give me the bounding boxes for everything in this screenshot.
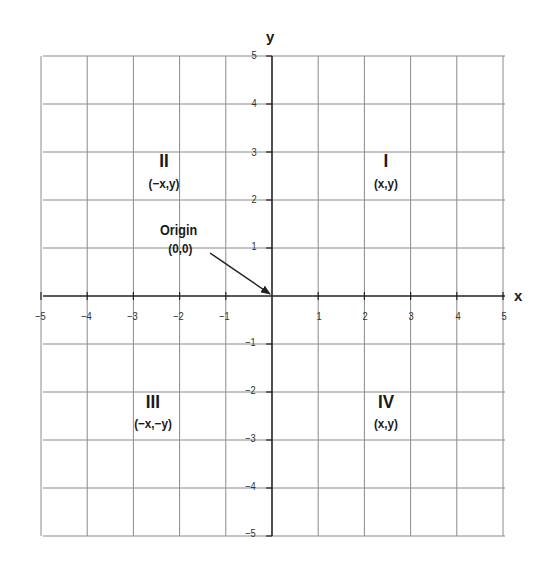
y-tick: −4 xyxy=(245,480,256,492)
origin-coords: (0,0) xyxy=(168,241,192,256)
x-tick: −4 xyxy=(81,310,92,322)
x-axis-label: x xyxy=(514,287,522,304)
x-tick: 2 xyxy=(362,310,367,322)
y-tick: 5 xyxy=(251,49,256,61)
y-tick: −3 xyxy=(245,432,256,444)
x-tick: 5 xyxy=(501,310,506,322)
quadrant-IV-numeral: IV xyxy=(368,391,404,413)
quadrant-I-coords: (x,y) xyxy=(350,176,422,191)
quadrant-II-coords: (−x,y) xyxy=(128,176,200,191)
quadrant-I-numeral: I xyxy=(368,150,404,172)
x-tick: −3 xyxy=(127,310,138,322)
quadrant-IV-coords: (x,y) xyxy=(350,416,422,431)
origin-arrow xyxy=(210,253,270,294)
y-tick: −1 xyxy=(245,336,256,348)
y-tick: −2 xyxy=(245,384,256,396)
y-tick: 4 xyxy=(251,97,256,109)
x-tick: −5 xyxy=(35,310,46,322)
quadrant-III-coords: (−x,−y) xyxy=(113,416,194,431)
x-tick: 4 xyxy=(455,310,460,322)
y-tick: 3 xyxy=(251,146,256,158)
x-tick: −2 xyxy=(173,310,184,322)
y-tick: −5 xyxy=(245,527,256,539)
x-tick: −1 xyxy=(219,310,230,322)
origin-title: Origin xyxy=(160,222,197,238)
y-tick: 1 xyxy=(251,240,256,252)
coordinate-grid xyxy=(0,0,548,573)
x-tick: 3 xyxy=(408,310,413,322)
quadrant-II-numeral: II xyxy=(146,150,182,172)
y-axis-label: y xyxy=(266,28,274,45)
quadrant-III-numeral: III xyxy=(135,391,171,413)
x-tick: 1 xyxy=(316,310,321,322)
axes xyxy=(41,56,505,536)
y-tick: 2 xyxy=(251,193,256,205)
